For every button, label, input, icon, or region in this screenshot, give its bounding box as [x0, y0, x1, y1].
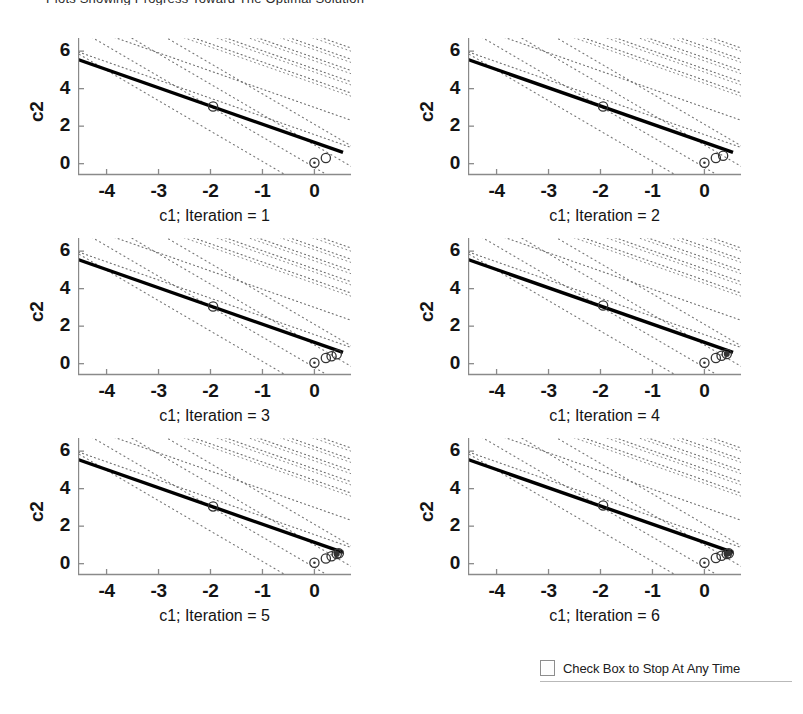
x-tick-label: 0	[294, 380, 334, 402]
control-panel-divider	[540, 681, 792, 682]
constraint-line	[78, 460, 343, 553]
y-tick-label: 0	[44, 352, 70, 374]
y-tick-label: 0	[434, 552, 460, 574]
subplot-iteration-3	[78, 238, 353, 382]
subplot-canvas-1	[78, 38, 353, 182]
x-axis-label-iteration-1: c1; Iteration = 1	[58, 207, 371, 225]
stop-checkbox-box[interactable]	[540, 660, 555, 676]
constraint-line	[468, 460, 733, 553]
subplot-canvas-4	[468, 238, 743, 382]
subplot-canvas-5	[78, 438, 353, 582]
x-tick-label: -3	[529, 180, 569, 202]
y-tick-label: 4	[434, 477, 460, 499]
iterate-marker	[711, 553, 720, 562]
x-tick-label: 0	[684, 180, 724, 202]
y-tick-label: 4	[44, 77, 70, 99]
x-tick-label: -3	[139, 180, 179, 202]
x-tick-label: -2	[581, 180, 621, 202]
iterate-marker	[310, 158, 319, 167]
x-tick-label: -1	[242, 380, 282, 402]
x-tick-label: -1	[242, 580, 282, 602]
x-tick-label: -3	[529, 580, 569, 602]
constraint-line	[468, 60, 733, 153]
subplot-iteration-6	[468, 438, 743, 582]
y-tick-label: 4	[434, 77, 460, 99]
x-tick-label: -1	[632, 380, 672, 402]
constraint-line	[78, 260, 343, 353]
x-tick-label: 0	[684, 380, 724, 402]
y-axis-label: c2	[26, 101, 48, 122]
y-tick-label: 0	[44, 152, 70, 174]
iterate-marker	[310, 358, 319, 367]
y-tick-label: 0	[434, 152, 460, 174]
x-tick-label: -4	[477, 580, 517, 602]
iteration-figure: 0246-4-3-2-10c2c1; Iteration = 10246-4-3…	[0, 0, 803, 714]
x-axis-label-iteration-5: c1; Iteration = 5	[58, 607, 371, 625]
x-tick-label: -3	[139, 380, 179, 402]
x-tick-label: 0	[294, 180, 334, 202]
subplot-iteration-4	[468, 238, 743, 382]
y-tick-label: 4	[44, 477, 70, 499]
x-tick-label: -2	[191, 180, 231, 202]
y-tick-label: 0	[44, 552, 70, 574]
y-tick-label: 6	[44, 239, 70, 261]
x-tick-label: 0	[294, 580, 334, 602]
constraint-line	[468, 260, 733, 353]
x-tick-label: -4	[87, 180, 127, 202]
constraint-line	[78, 60, 343, 153]
y-tick-label: 6	[44, 39, 70, 61]
x-axis-label-iteration-4: c1; Iteration = 4	[448, 407, 761, 425]
x-tick-label: -1	[632, 180, 672, 202]
x-tick-label: -1	[242, 180, 282, 202]
y-tick-label: 6	[434, 39, 460, 61]
stop-checkbox-control[interactable]: Check Box to Stop At Any Time	[540, 655, 792, 681]
stop-checkbox-label: Check Box to Stop At Any Time	[563, 661, 740, 676]
y-axis-label: c2	[416, 101, 438, 122]
y-tick-label: 4	[44, 277, 70, 299]
y-tick-label: 4	[434, 277, 460, 299]
iterate-marker	[321, 554, 330, 563]
x-tick-label: -4	[477, 180, 517, 202]
x-tick-label: -1	[632, 580, 672, 602]
x-tick-label: -4	[87, 380, 127, 402]
subplot-iteration-1	[78, 38, 353, 182]
y-tick-label: 6	[434, 439, 460, 461]
iterate-marker	[700, 158, 709, 167]
subplot-canvas-6	[468, 438, 743, 582]
subplot-canvas-3	[78, 238, 353, 382]
iterate-marker	[310, 558, 319, 567]
x-tick-label: -3	[139, 580, 179, 602]
x-tick-label: -2	[191, 580, 231, 602]
x-tick-label: -4	[87, 580, 127, 602]
subplot-canvas-2	[468, 38, 743, 182]
iterate-marker	[700, 558, 709, 567]
x-axis-label-iteration-3: c1; Iteration = 3	[58, 407, 371, 425]
y-tick-label: 0	[434, 352, 460, 374]
y-axis-label: c2	[416, 501, 438, 522]
iterate-marker	[700, 358, 709, 367]
iterate-marker	[321, 153, 330, 162]
iterate-marker	[321, 353, 330, 362]
x-axis-label-iteration-6: c1; Iteration = 6	[448, 607, 761, 625]
x-tick-label: -3	[529, 380, 569, 402]
y-axis-label: c2	[416, 301, 438, 322]
iterate-marker	[711, 353, 720, 362]
x-tick-label: 0	[684, 580, 724, 602]
iterate-marker	[327, 352, 336, 361]
subplot-iteration-2	[468, 38, 743, 182]
y-tick-label: 6	[434, 239, 460, 261]
x-tick-label: -4	[477, 380, 517, 402]
subplot-iteration-5	[78, 438, 353, 582]
y-axis-label: c2	[26, 501, 48, 522]
x-tick-label: -2	[581, 380, 621, 402]
x-tick-label: -2	[191, 380, 231, 402]
x-tick-label: -2	[581, 580, 621, 602]
x-axis-label-iteration-2: c1; Iteration = 2	[448, 207, 761, 225]
y-tick-label: 6	[44, 439, 70, 461]
y-axis-label: c2	[26, 301, 48, 322]
